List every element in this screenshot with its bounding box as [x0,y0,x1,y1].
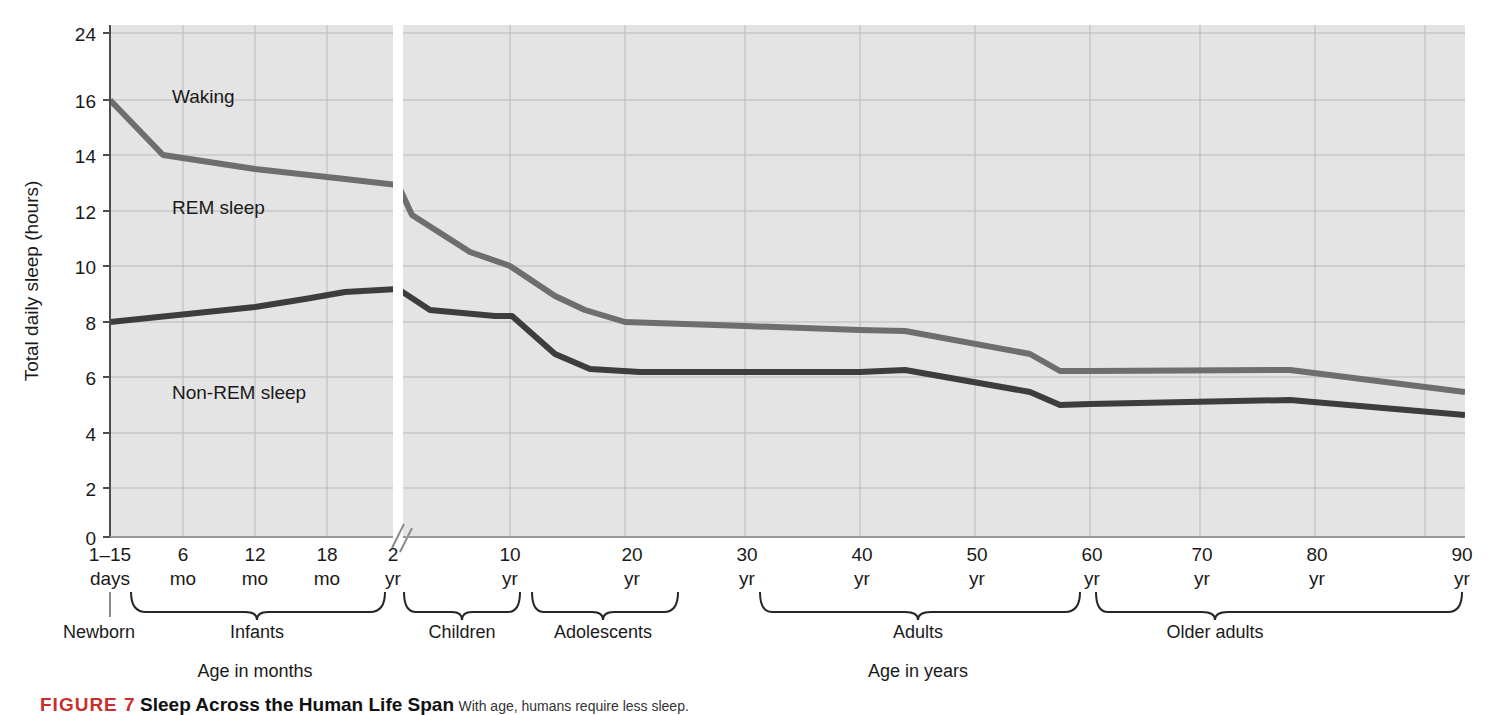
x-tick-num-12: 80 [1306,544,1327,565]
x-axis-title-years: Age in years [868,661,968,681]
group-label-older-adults: Older adults [1166,622,1263,642]
x-tick-unit-7: yr [739,568,756,589]
y-axis [103,25,110,537]
x-axis-titles: Age in months Age in years [197,661,968,681]
x-tick-unit-3: mo [314,568,340,589]
age-group-labels: Newborn Infants Children Adolescents Adu… [63,622,1264,642]
x-tick-unit-9: yr [969,568,986,589]
x-tick-unit-8: yr [854,568,871,589]
y-tick-8: 8 [85,313,96,334]
x-tick-num-2: 12 [244,544,265,565]
band-label-rem-sleep: REM sleep [172,197,265,218]
x-tick-num-5: 10 [499,544,520,565]
age-group-brackets [110,592,1462,620]
caption-title: Sleep Across the Human Life Span [140,694,454,715]
y-tick-4: 4 [85,424,96,445]
x-tick-unit-2: mo [242,568,268,589]
group-label-newborn: Newborn [63,622,135,642]
group-label-adolescents: Adolescents [554,622,652,642]
y-tick-6: 6 [85,368,96,389]
y-tick-14: 14 [75,146,97,167]
x-tick-num-11: 70 [1191,544,1212,565]
group-label-adults: Adults [893,622,943,642]
figure-container: 24 16 14 12 10 8 6 4 2 0 Total daily sle… [0,0,1498,715]
x-tick-unit-10: yr [1084,568,1101,589]
y-tick-10: 10 [75,257,96,278]
x-tick-num-6: 20 [621,544,642,565]
x-tick-num-1: 6 [178,544,189,565]
x-axis-title-months: Age in months [197,661,312,681]
sleep-across-lifespan-chart: 24 16 14 12 10 8 6 4 2 0 Total daily sle… [0,0,1498,695]
x-tick-num-10: 60 [1081,544,1102,565]
y-tick-16: 16 [75,91,96,112]
x-tick-unit-1: mo [170,568,196,589]
y-tick-labels: 24 16 14 12 10 8 6 4 2 0 [75,24,97,549]
group-label-infants: Infants [230,622,284,642]
x-tick-unit-11: yr [1194,568,1211,589]
x-tick-unit-6: yr [624,568,641,589]
x-tick-num-3: 18 [316,544,337,565]
x-tick-unit-4: yr [385,568,402,589]
x-tick-num-13: 90 [1451,544,1472,565]
caption-body: With age, humans require less sleep. [458,698,688,714]
x-tick-num-9: 50 [966,544,987,565]
y-tick-2: 2 [85,479,96,500]
figure-caption: FIGURE 7 Sleep Across the Human Life Spa… [40,694,1440,715]
caption-figure-number: FIGURE 7 [40,694,136,715]
band-label-non-rem-sleep: Non-REM sleep [172,382,306,403]
x-tick-unit-5: yr [502,568,519,589]
y-axis-title: Total daily sleep (hours) [21,181,42,382]
plot-background [110,25,1465,537]
x-tick-unit-13: yr [1454,568,1471,589]
y-tick-24: 24 [75,24,97,45]
band-label-waking: Waking [172,86,235,107]
x-tick-num-7: 30 [736,544,757,565]
x-tick-num-8: 40 [851,544,872,565]
x-tick-unit-0: days [90,568,130,589]
x-tick-num-4: 2 [388,544,399,565]
group-label-children: Children [428,622,495,642]
y-tick-12: 12 [75,202,96,223]
x-tick-unit-12: yr [1309,568,1326,589]
x-tick-num-0: 1–15 [89,544,131,565]
x-tick-labels: 1–15 days 6 mo 12 mo 18 mo 2 yr 10 yr 20… [89,544,1473,589]
